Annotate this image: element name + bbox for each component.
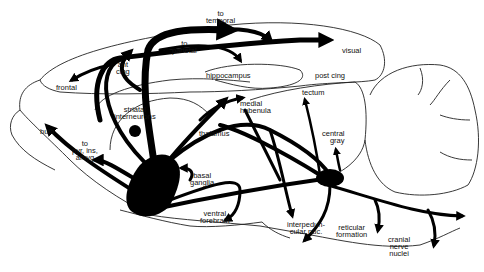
label-to-parietal: to parietal <box>172 40 197 54</box>
label-thalamus: thalamus <box>199 130 229 137</box>
label-line: parietal <box>172 47 197 54</box>
label-post-cing: post cing <box>315 72 345 79</box>
label-line: habenula <box>240 107 271 114</box>
label-visual: visual <box>342 47 361 54</box>
label-to-temporal: to temporal <box>206 10 235 24</box>
label-reticular-formation: reticular formation <box>336 224 367 238</box>
label-ant-cing: ant cing <box>116 61 130 75</box>
label-line: amyg <box>72 154 98 161</box>
label-line: gray <box>322 137 345 144</box>
label-bulb: bulb <box>40 128 54 135</box>
label-line: ganglia <box>190 179 214 186</box>
label-hippocampus: hippocampus <box>206 72 251 79</box>
label-line: cular nuc. <box>287 228 325 235</box>
label-tectum: tectum <box>302 89 325 96</box>
label-line: nuclei <box>388 250 410 257</box>
brain-pathway-diagram <box>0 0 484 272</box>
label-line: formation <box>336 231 367 238</box>
label-medial-habenula: medial habenula <box>240 100 271 114</box>
label-line: forebrain <box>200 217 230 224</box>
label-frontal: frontal <box>56 84 77 91</box>
label-line: temporal <box>206 17 235 24</box>
label-to-pyr-ins-amyg: to pyr, ins, amyg <box>72 140 98 161</box>
label-line: cing <box>116 68 130 75</box>
label-basal-ganglia: basal ganglia <box>190 172 214 186</box>
label-line: interneurons <box>114 113 156 120</box>
pathways <box>48 29 462 245</box>
label-cranial-nerve-nuclei: cranial nerve nuclei <box>388 236 410 257</box>
label-striatal-interneurons: striatal interneurons <box>114 106 156 120</box>
label-ventral-forebrain: ventral forebrain <box>200 210 230 224</box>
label-interpeduncular-nuc: interpedun- cular nuc. <box>287 221 325 235</box>
striatal-interneuron-dot <box>129 125 141 137</box>
label-central-gray: central gray <box>322 130 345 144</box>
